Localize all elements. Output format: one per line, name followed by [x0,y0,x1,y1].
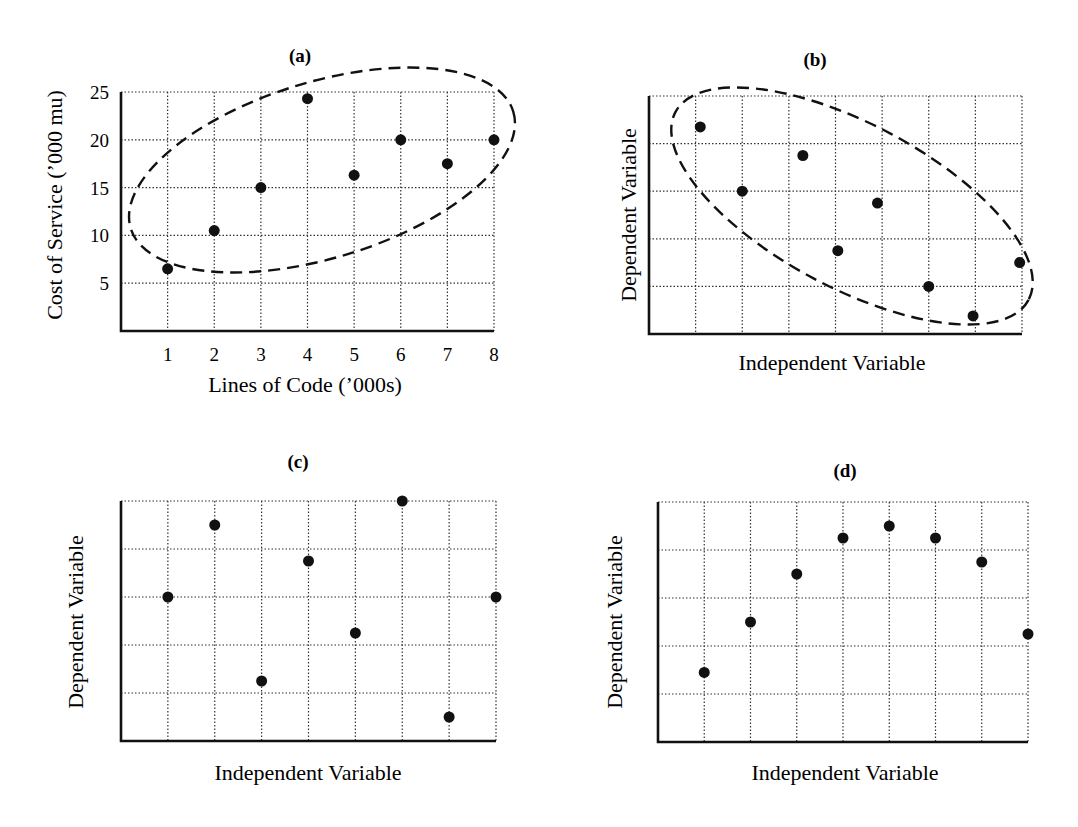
data-point [976,557,987,568]
data-point [923,281,934,292]
grid-lines [121,501,496,741]
x-tick-label: 5 [349,344,359,365]
x-tick-label: 8 [489,344,499,365]
x-axis-label: Independent Variable [738,350,925,375]
data-point [349,170,360,181]
data-point [302,93,313,104]
data-point [395,134,406,145]
x-tick-label: 4 [303,344,313,365]
y-tick-label: 25 [90,82,109,103]
x-axis-label: Independent Variable [751,760,938,785]
y-tick-label: 20 [90,130,109,151]
x-axis-label: Independent Variable [214,760,401,785]
data-point [695,121,706,132]
y-axis-label: Dependent Variable [616,128,641,302]
data-point [968,310,979,321]
data-point [737,186,748,197]
y-tick-label: 5 [100,273,110,294]
x-tick-label: 1 [163,344,173,365]
data-point [791,569,802,580]
chart-panel-a: 12345678510152025(a)Lines of Code (’000s… [42,27,539,397]
y-tick-label: 10 [90,225,109,246]
chart-panel-d: (d)Independent VariableDependent Variabl… [602,460,1034,785]
data-point [884,521,895,532]
dashed-ellipse [637,40,1067,373]
data-point [745,617,756,628]
data-point [162,592,173,603]
data-point [162,263,173,274]
grid-lines [121,92,494,331]
data-point [872,198,883,209]
data-point [209,225,220,236]
data-point [209,520,220,531]
chart-panel-b: (b)Independent VariableDependent Variabl… [616,40,1067,375]
x-tick-label: 6 [396,344,406,365]
panel-title: (c) [287,451,308,473]
y-axis-label: Dependent Variable [63,535,88,709]
y-axis-label: Dependent Variable [602,535,627,709]
x-axis-label: Lines of Code (’000s) [208,372,402,397]
x-tick-label: 3 [256,344,266,365]
data-point [699,667,710,678]
y-axis-label: Cost of Service (’000 mu) [42,90,67,320]
data-point [832,245,843,256]
x-tick-label: 2 [210,344,220,365]
data-point [797,150,808,161]
data-point [489,134,500,145]
panel-title: (a) [289,45,311,67]
y-tick-label: 15 [90,178,109,199]
scatter-figure: 12345678510152025(a)Lines of Code (’000s… [0,0,1078,827]
data-point [1023,629,1034,640]
data-point [256,676,267,687]
data-point [303,556,314,567]
panel-title: (d) [833,460,856,482]
data-point [255,182,266,193]
data-point [397,496,408,507]
grid-lines [649,96,1022,334]
data-point [1014,257,1025,268]
data-point [350,628,361,639]
data-point [930,533,941,544]
chart-panel-c: (c)Independent VariableDependent Variabl… [63,451,502,785]
data-point [491,592,502,603]
data-point [838,533,849,544]
x-tick-label: 7 [443,344,453,365]
data-point [444,712,455,723]
data-point [442,158,453,169]
panel-title: (b) [803,49,826,71]
